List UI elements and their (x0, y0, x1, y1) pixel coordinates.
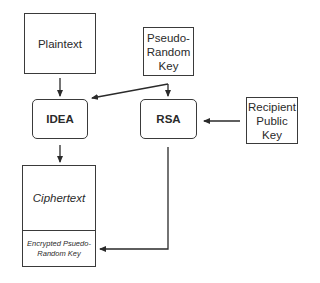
rsa-label: RSA (156, 113, 180, 125)
rsa-node: RSA (140, 99, 197, 139)
arrow-rsa-to-encrypted-key (100, 147, 168, 249)
plaintext-node: Plaintext (24, 13, 96, 74)
rpk-label-line1: Recipient (248, 100, 296, 114)
ciphertext-section: Ciphertext (23, 166, 95, 231)
pseudo-random-key-node: Pseudo- Random Key (143, 27, 194, 76)
plaintext-label: Plaintext (38, 37, 82, 51)
encrypted-key-label-line1: Encrypted Psuedo- (27, 239, 91, 249)
prk-label-line3: Key (159, 59, 179, 73)
idea-label: IDEA (46, 113, 73, 125)
encrypted-key-label-line2: Random Key (37, 249, 80, 259)
rpk-label-line3: Key (262, 128, 282, 142)
ciphertext-label: Ciphertext (33, 192, 85, 204)
arrow-prk-to-idea (92, 84, 168, 98)
prk-label-line2: Random (147, 45, 190, 59)
rpk-label-line2: Public (256, 114, 287, 128)
output-message-node: Ciphertext Encrypted Psuedo- Random Key (22, 165, 96, 267)
recipient-public-key-node: Recipient Public Key (246, 97, 298, 144)
idea-node: IDEA (32, 99, 88, 139)
prk-label-line1: Pseudo- (147, 31, 190, 45)
encrypted-key-section: Encrypted Psuedo- Random Key (23, 231, 95, 266)
